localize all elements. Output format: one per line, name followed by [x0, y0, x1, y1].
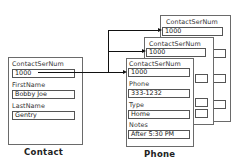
contact-ser-num-field[interactable]: 1000: [162, 27, 223, 36]
contact-caption: Contact: [24, 147, 63, 157]
empty-field[interactable]: [213, 49, 226, 58]
connector-main-line: [38, 72, 123, 73]
arrow-head-icon: [158, 28, 162, 32]
empty-field[interactable]: [195, 74, 208, 83]
contact-ser-num-field[interactable]: 1000: [12, 69, 75, 78]
field-label: Phone: [129, 81, 149, 88]
connector-top-line: [108, 30, 160, 31]
empty-field[interactable]: [195, 109, 208, 118]
empty-field[interactable]: [195, 98, 208, 107]
field-label: Type: [129, 102, 144, 109]
field-label: LastName: [12, 103, 45, 110]
phone-field[interactable]: 333-1232: [128, 89, 190, 98]
field-label: ContactSerNum: [129, 61, 181, 68]
empty-field[interactable]: [213, 100, 226, 109]
last-name-field[interactable]: Gentry: [12, 111, 75, 120]
field-label: ContactSerNum: [166, 19, 218, 26]
empty-field[interactable]: [213, 74, 226, 83]
contact-record: ContactSerNum 1000 FirstName Bobby Joe L…: [8, 57, 83, 145]
arrow-head-icon: [123, 70, 127, 74]
notes-field[interactable]: After 5:30 PM: [128, 130, 190, 139]
field-label: ContactSerNum: [149, 41, 201, 48]
arrow-head-icon: [142, 49, 146, 53]
contact-ser-num-field[interactable]: 1000: [128, 68, 190, 77]
phone-caption: Phone: [144, 149, 175, 159]
connector-middle-line: [108, 51, 144, 52]
contact-ser-num-field[interactable]: 1000: [146, 48, 206, 57]
field-label: FirstName: [12, 82, 45, 89]
type-field[interactable]: Home: [128, 110, 190, 119]
first-name-field[interactable]: Bobby Joe: [12, 90, 75, 99]
phone-record-front: ContactSerNum 1000 Phone 333-1232 Type H…: [126, 58, 194, 147]
field-label: ContactSerNum: [12, 61, 64, 68]
field-label: Notes: [129, 122, 148, 129]
